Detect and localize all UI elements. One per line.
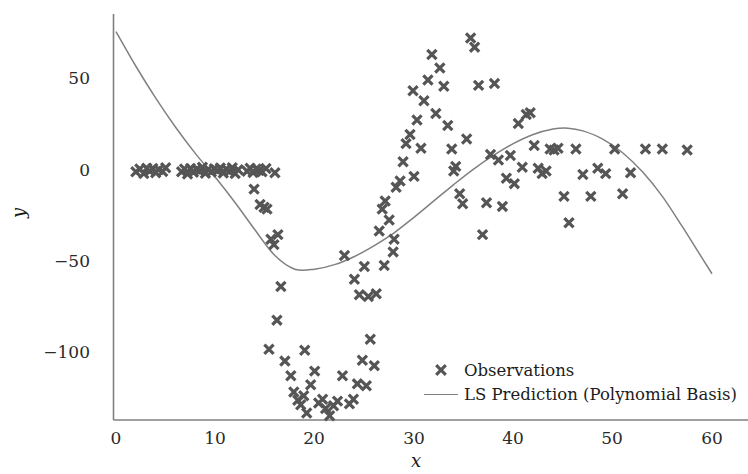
x-tick-label: 40	[502, 430, 524, 447]
data-point-marker	[349, 395, 358, 404]
data-point-marker	[578, 170, 587, 179]
scatter-chart-figure: 50 0 −50 −100 0 10 20 30 40 50 60 y x Ob…	[0, 0, 748, 474]
data-point-marker	[431, 109, 440, 118]
line-swatch-icon	[418, 394, 464, 395]
x-tick-label: 20	[303, 430, 325, 447]
data-point-marker	[530, 141, 539, 150]
data-point-marker	[300, 346, 309, 355]
data-point-marker	[466, 33, 475, 42]
data-point-marker	[276, 282, 285, 291]
data-point-marker	[447, 144, 456, 153]
data-point-marker	[626, 168, 635, 177]
y-axis-title: y	[10, 208, 28, 218]
data-point-marker	[455, 189, 464, 198]
data-point-marker	[435, 63, 444, 72]
x-tick-label: 0	[111, 430, 122, 447]
data-point-marker	[439, 82, 448, 91]
data-point-marker	[270, 168, 279, 177]
data-point-marker	[470, 43, 479, 52]
data-point-marker	[571, 144, 580, 153]
y-tick-label: 50	[18, 70, 90, 87]
ls-prediction-path	[116, 32, 712, 274]
data-point-marker	[385, 215, 394, 224]
data-point-marker	[502, 174, 511, 183]
data-point-marker	[366, 335, 375, 344]
y-tick-label: −50	[18, 253, 90, 270]
data-point-marker	[272, 316, 281, 325]
data-point-marker	[494, 155, 503, 164]
ls-prediction-curve	[116, 32, 712, 274]
x-axis-title: x	[411, 452, 421, 470]
data-point-marker	[478, 230, 487, 239]
data-point-marker	[338, 371, 347, 380]
data-point-marker	[482, 198, 491, 207]
data-point-marker	[318, 395, 327, 404]
data-point-marker	[618, 189, 627, 198]
data-point-marker	[390, 235, 399, 244]
x-tick-label: 30	[403, 430, 425, 447]
data-point-marker	[370, 361, 379, 370]
data-point-marker	[409, 172, 418, 181]
x-tick-label: 10	[204, 430, 226, 447]
data-point-marker	[405, 130, 414, 139]
data-point-marker	[412, 115, 421, 124]
data-point-marker	[658, 144, 667, 153]
legend-item-ls-prediction: LS Prediction (Polynomial Basis)	[418, 382, 718, 406]
data-point-marker	[333, 397, 342, 406]
data-point-marker	[340, 251, 349, 260]
data-point-marker	[564, 218, 573, 227]
data-point-marker	[360, 262, 369, 271]
y-tick-label: 0	[18, 162, 90, 179]
data-point-marker	[302, 408, 311, 417]
data-point-marker	[355, 290, 364, 299]
data-point-marker	[416, 144, 425, 153]
data-point-marker	[423, 75, 432, 84]
data-point-marker	[375, 226, 384, 235]
data-point-marker	[518, 163, 527, 172]
data-point-marker	[510, 179, 519, 188]
data-point-marker	[462, 134, 471, 143]
data-point-marker	[350, 275, 359, 284]
data-point-marker	[559, 192, 568, 201]
data-point-marker	[264, 345, 273, 354]
data-point-marker	[498, 202, 507, 211]
chart-legend: Observations LS Prediction (Polynomial B…	[418, 358, 718, 406]
data-point-marker	[280, 357, 289, 366]
data-point-marker	[490, 79, 499, 88]
data-point-marker	[408, 86, 417, 95]
x-tick-label: 60	[701, 430, 723, 447]
data-point-marker	[427, 50, 436, 59]
x-tick-label: 50	[601, 430, 623, 447]
data-point-marker	[380, 261, 389, 270]
data-point-marker	[358, 356, 367, 365]
data-point-marker	[474, 81, 483, 90]
data-point-marker	[310, 367, 319, 376]
data-point-marker	[514, 119, 523, 128]
data-point-marker	[601, 169, 610, 178]
data-point-marker	[306, 380, 315, 389]
y-tick-label: −100	[18, 344, 90, 361]
data-point-marker	[683, 145, 692, 154]
legend-item-observations: Observations	[418, 358, 718, 382]
data-point-marker	[353, 379, 362, 388]
data-point-marker	[419, 96, 428, 105]
legend-label-ls-prediction: LS Prediction (Polynomial Basis)	[464, 385, 737, 404]
data-point-marker	[401, 139, 410, 148]
marker-x-icon	[418, 362, 464, 378]
legend-label-observations: Observations	[464, 361, 574, 380]
data-point-marker	[286, 371, 295, 380]
data-point-marker	[641, 144, 650, 153]
data-point-marker	[586, 192, 595, 201]
data-point-marker	[249, 185, 258, 194]
data-point-marker	[506, 151, 515, 160]
data-point-marker	[593, 164, 602, 173]
data-point-marker	[443, 121, 452, 130]
data-point-marker	[362, 381, 371, 390]
data-point-marker	[398, 157, 407, 166]
data-point-marker	[458, 199, 467, 208]
data-point-marker	[389, 247, 398, 256]
